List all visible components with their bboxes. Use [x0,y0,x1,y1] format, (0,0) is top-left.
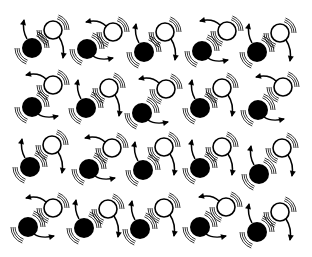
left-arrow-icon-head [85,18,92,24]
right-arrow-icon-head [48,234,55,240]
pair-r4-c3 [123,193,180,245]
pair-r1-c3 [127,17,181,68]
pair-r1-c1 [15,15,69,64]
white-particle [43,136,61,154]
right-arrow-icon-head [278,117,285,123]
up-arrow-icon-head [245,23,251,29]
black-particle [22,38,42,58]
pair-r2-c4 [183,73,238,124]
down-arrow-icon-head [61,53,67,59]
black-particle [190,98,210,118]
left-arrow-icon-head [138,75,145,81]
white-particle [103,139,121,157]
left-arrow-icon-head [198,193,205,199]
right-arrow-icon-head [109,176,116,182]
pair-r2-c2 [69,73,125,124]
up-arrow-icon-head [132,23,138,29]
white-particle [44,21,62,39]
pair-r4-c1 [11,193,69,243]
right-arrow-icon-head [162,120,169,126]
up-arrow-icon-head [74,79,80,85]
pair-r1-c5 [240,18,296,68]
black-particle [74,218,94,238]
pair-r3-c5 [242,133,298,190]
down-arrow-icon-head [172,231,178,237]
white-particle [217,198,235,216]
pair-r3-c2 [72,133,128,185]
right-arrow-icon-head [107,56,114,62]
up-arrow-icon-head [20,19,26,25]
down-arrow-icon-head [173,55,179,61]
up-arrow-icon-head [18,138,24,144]
pair-r3-c1 [13,130,68,183]
white-particle [271,203,289,221]
white-particle [273,139,291,157]
down-arrow-icon-head [116,232,122,238]
right-arrow-icon-head [52,114,59,120]
left-arrow-icon-head [25,194,32,200]
pair-r4-c2 [67,194,124,244]
white-particle [157,80,175,98]
up-arrow-icon-head [245,203,251,209]
left-arrow-icon-head [199,17,206,23]
black-particle [133,160,153,180]
white-particle [213,79,231,97]
down-arrow-icon-head [288,235,294,241]
black-particle [76,98,96,118]
black-particle [130,219,150,239]
down-arrow-icon-head [230,170,236,176]
down-arrow-icon-head [60,168,66,174]
white-particle [271,24,289,42]
pair-r2-c3 [125,74,182,129]
pair-r4-c5 [240,197,296,248]
pair-r2-c1 [15,70,69,123]
up-arrow-icon-head [128,200,134,206]
left-arrow-icon-head [84,134,91,140]
white-particle [155,199,173,217]
white-particle [218,22,236,40]
pair-r3-c4 [183,132,238,184]
down-arrow-icon-head [290,171,296,177]
black-particle [134,42,154,62]
up-arrow-icon-head [72,199,78,205]
white-particle [44,199,62,217]
down-arrow-icon-head [172,170,178,176]
black-particle [247,222,267,242]
pair-r1-c2 [70,17,129,65]
black-particle [190,158,210,178]
down-arrow-icon-head [288,56,294,62]
black-particle [20,157,40,177]
white-particle [274,78,292,96]
up-arrow-icon-head [247,145,253,151]
pair-r2-c5 [241,72,299,126]
right-arrow-icon-head [222,58,229,64]
black-particle [247,42,267,62]
white-particle [155,138,173,156]
left-arrow-icon-head [25,71,32,77]
white-particle [99,200,117,218]
white-particle [156,23,174,41]
vibrating-pairs-diagram [0,0,312,257]
pair-r1-c4 [185,16,243,67]
pair-r4-c4 [183,192,242,243]
up-arrow-icon-head [131,141,137,147]
white-particle [100,79,118,97]
left-arrow-icon-head [255,73,262,79]
black-particle [249,164,269,184]
white-particle [44,76,62,94]
up-arrow-icon-head [188,139,194,145]
down-arrow-icon-head [117,111,123,117]
right-arrow-icon-head [220,234,227,240]
white-particle [104,23,122,41]
down-arrow-icon-head [230,111,236,117]
pair-r3-c3 [126,132,180,186]
up-arrow-icon-head [188,79,194,85]
pairs-layer [11,15,299,248]
white-particle [213,138,231,156]
